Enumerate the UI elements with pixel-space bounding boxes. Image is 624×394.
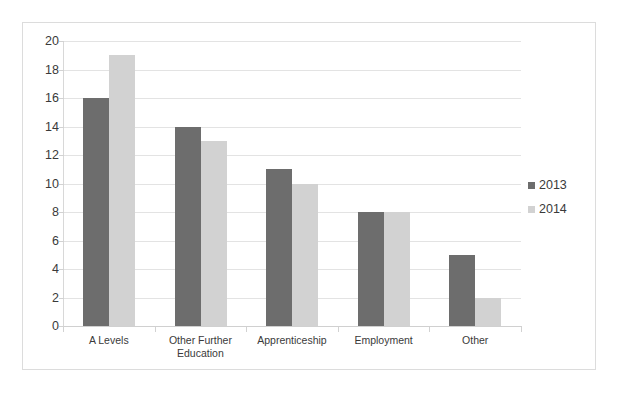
x-axis-label: Other [429, 334, 521, 347]
bar-2014-a-levels[interactable] [109, 55, 135, 326]
x-axis-tick-mark [521, 327, 522, 332]
legend-item-2014[interactable]: 2014 [528, 197, 590, 221]
bar-group [155, 41, 247, 326]
y-axis-tick-label: 10 [25, 177, 59, 190]
x-axis-line [63, 326, 522, 327]
bar-2013-apprenticeship[interactable] [266, 169, 292, 326]
x-axis-label: Apprenticeship [246, 334, 338, 347]
bar-2013-other-further-education[interactable] [175, 127, 201, 327]
y-axis-tick-label: 16 [25, 92, 59, 105]
y-axis-tick-label: 12 [25, 149, 59, 162]
legend-label: 2014 [539, 203, 567, 216]
x-axis-tick-mark [338, 327, 339, 332]
y-axis-tick-label: 2 [25, 291, 59, 304]
x-axis-tick-mark [155, 327, 156, 332]
y-axis-tick-mark [59, 41, 64, 42]
bar-2013-other[interactable] [449, 255, 475, 326]
x-axis-label: Employment [338, 334, 430, 347]
bar-2014-apprenticeship[interactable] [292, 184, 318, 327]
y-axis-tick-mark [59, 155, 64, 156]
bar-2014-other[interactable] [475, 298, 501, 327]
x-axis-label: A Levels [63, 334, 155, 347]
x-axis-tick-mark [63, 327, 64, 332]
y-axis-tick-label: 18 [25, 63, 59, 76]
bar-group [429, 41, 521, 326]
bar-2014-employment[interactable] [384, 212, 410, 326]
chart-legend: 20132014 [528, 173, 590, 221]
y-axis-tick-mark [59, 98, 64, 99]
y-axis-tick-mark [59, 269, 64, 270]
legend-swatch-icon [528, 182, 535, 189]
bar-2014-other-further-education[interactable] [201, 141, 227, 326]
x-axis-label: Other Further Education [155, 334, 247, 360]
y-axis-tick-mark [59, 298, 64, 299]
bar-2013-employment[interactable] [358, 212, 384, 326]
y-axis-tick-mark [59, 212, 64, 213]
x-axis-tick-mark [246, 327, 247, 332]
y-axis-tick-mark [59, 70, 64, 71]
legend-item-2013[interactable]: 2013 [528, 173, 590, 197]
chart-frame: 20181614121086420 20132014 A LevelsOther… [22, 22, 596, 370]
y-axis-tick-label: 14 [25, 120, 59, 133]
y-axis-tick-mark [59, 241, 64, 242]
y-axis-tick-label: 8 [25, 206, 59, 219]
bar-2013-a-levels[interactable] [83, 98, 109, 326]
y-axis-tick-label: 20 [25, 35, 59, 48]
y-axis-tick-mark [59, 127, 64, 128]
bar-group [63, 41, 155, 326]
legend-swatch-icon [528, 206, 535, 213]
y-axis-tick-label: 0 [25, 320, 59, 333]
y-axis-tick-labels: 20181614121086420 [23, 41, 59, 326]
legend-label: 2013 [539, 179, 567, 192]
plot-area [63, 41, 521, 326]
y-axis-tick-label: 4 [25, 263, 59, 276]
y-axis-tick-label: 6 [25, 234, 59, 247]
y-axis-tick-mark [59, 184, 64, 185]
bar-group [338, 41, 430, 326]
x-axis-tick-mark [429, 327, 430, 332]
bar-group [246, 41, 338, 326]
